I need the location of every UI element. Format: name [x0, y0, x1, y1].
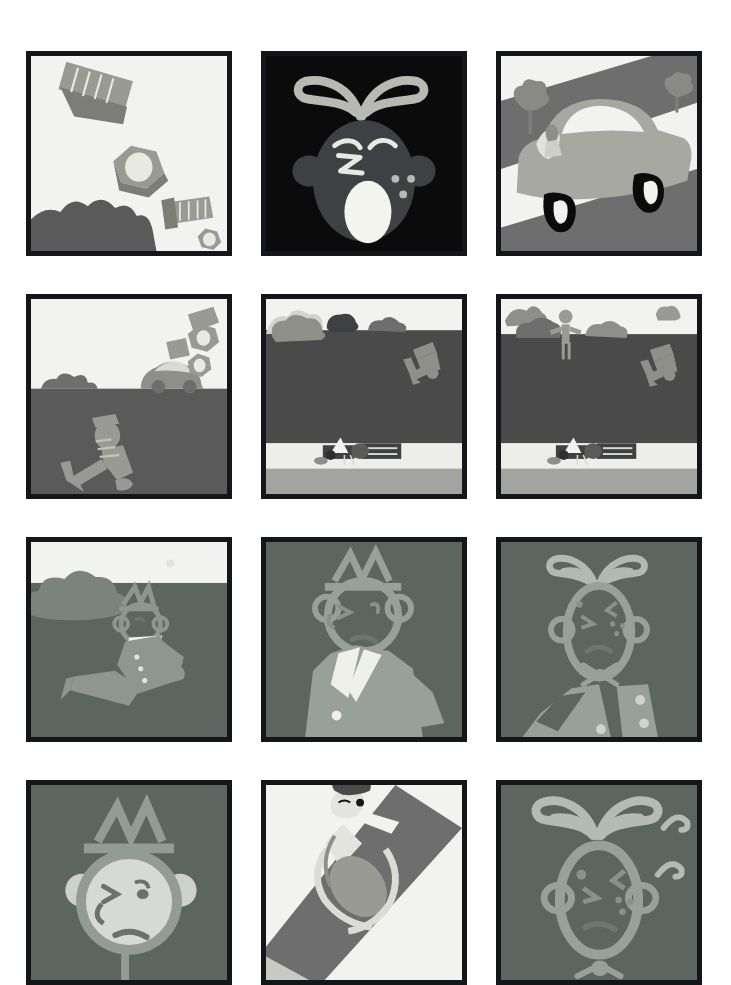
- panel-man-face-bottom-left[interactable]: [26, 780, 232, 985]
- sky-band: [31, 542, 227, 583]
- panel-3-art: [501, 56, 697, 251]
- panel-man-closeup-hat[interactable]: [261, 537, 467, 742]
- panel-figure-fallen-with-parts[interactable]: [26, 294, 232, 499]
- panel-other-man-face-bottom-right[interactable]: [496, 780, 702, 985]
- panel-other-man-closeup[interactable]: [496, 537, 702, 742]
- button: [332, 711, 342, 721]
- panel-car-on-road[interactable]: [496, 51, 702, 256]
- panel-4-art: [31, 299, 227, 494]
- eye-right: [137, 889, 149, 899]
- panel-7-art: [31, 542, 227, 737]
- panel-shouting-face-night[interactable]: [261, 51, 467, 256]
- tie-knot: [594, 669, 606, 681]
- panel-nuts-and-bolts-falling[interactable]: [26, 51, 232, 256]
- neck: [121, 953, 129, 980]
- panel-12-art: [501, 785, 697, 980]
- tie-knot: [591, 961, 609, 977]
- panel-1-art: [31, 56, 227, 251]
- foreground-strip: [266, 469, 462, 494]
- panel-5-art: [266, 299, 462, 494]
- panel-wide-landscape-witness[interactable]: [496, 294, 702, 499]
- open-mouth: [344, 181, 391, 243]
- panel-6-art: [501, 299, 697, 494]
- eye: [356, 799, 364, 807]
- ground: [31, 389, 227, 494]
- panel-wide-landscape-wreck[interactable]: [261, 294, 467, 499]
- panel-overhead-road-figure[interactable]: [261, 780, 467, 985]
- panel-9-art: [501, 542, 697, 737]
- panel-2-art: [266, 56, 462, 251]
- foreground-strip: [501, 469, 697, 494]
- panel-man-sitting-on-ground[interactable]: [26, 537, 232, 742]
- sun-dot: [166, 560, 174, 568]
- panel-10-art: [31, 785, 227, 980]
- panel-8-art: [266, 542, 462, 737]
- eye-dot: [576, 870, 586, 880]
- eye-dot: [576, 601, 583, 608]
- panel-11-art: [266, 785, 462, 980]
